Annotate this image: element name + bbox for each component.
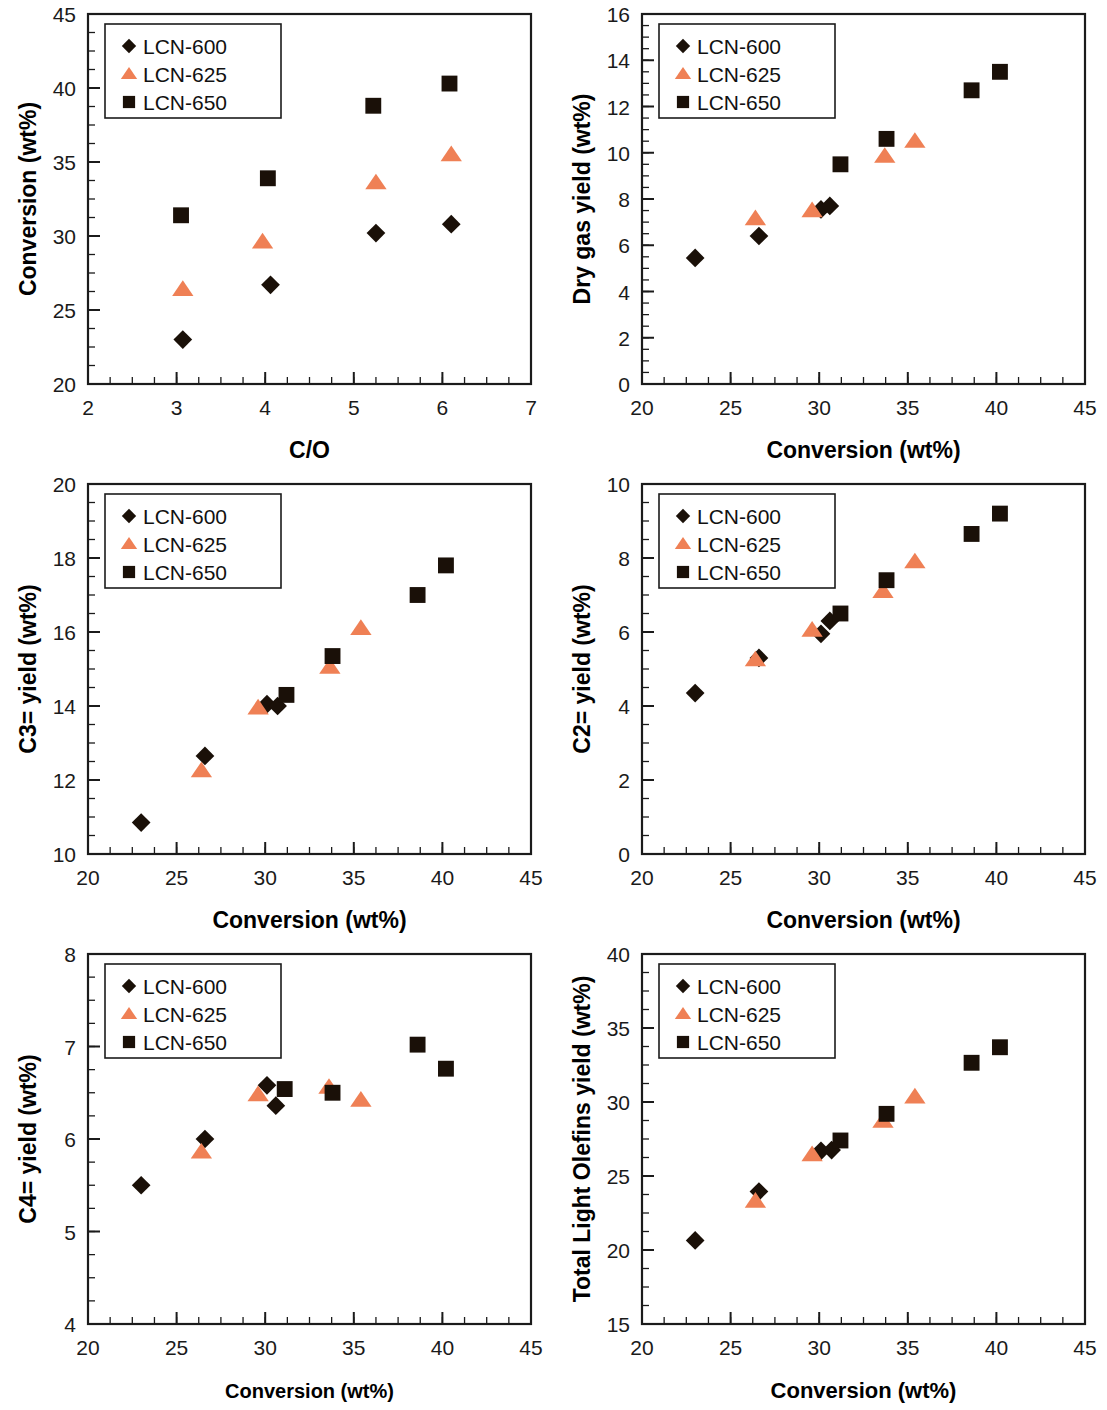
data-point-LCN-650 [325,648,341,664]
x-tick-label: 25 [165,866,188,889]
x-tick-label: 40 [431,866,454,889]
data-point-LCN-600 [132,1176,151,1195]
data-point-LCN-650 [410,1037,426,1053]
legend-label-LCN-650: LCN-650 [697,561,781,584]
y-tick-label: 0 [618,373,630,396]
data-point-LCN-600 [196,747,215,766]
y-tick-label: 45 [53,3,76,26]
data-point-LCN-625 [191,1143,212,1159]
x-tick-label: 40 [431,1336,454,1359]
x-tick-label: 35 [342,1336,365,1359]
chart-svg-c4-yield-vs-conversion: 20253035404545678Conversion (wt%)C4= yie… [0,940,553,1410]
x-tick-label: 40 [985,1336,1008,1359]
y-axis-title-group: C4= yield (wt%) [15,1054,41,1223]
x-tick-label: 20 [630,396,653,419]
x-tick-label: 30 [254,866,277,889]
data-point-LCN-600 [173,330,192,349]
x-tick-label: 3 [171,396,183,419]
x-tick-label: 35 [896,1336,919,1359]
x-axis-title: Conversion (wt%) [771,1378,957,1403]
y-tick-label: 6 [618,621,630,644]
y-tick-label: 14 [53,695,77,718]
x-tick-label: 45 [519,1336,542,1359]
x-tick-label: 25 [719,1336,742,1359]
data-point-LCN-650 [992,64,1008,80]
x-tick-label: 30 [254,1336,277,1359]
y-tick-label: 2 [618,769,630,792]
x-axis-title: C/O [289,437,330,463]
data-point-LCN-650 [964,82,980,98]
chart-panel-conversion-vs-co: 234567202530354045C/OConversion (wt%)LCN… [0,0,553,470]
y-tick-label: 4 [618,695,630,718]
data-points [132,1037,454,1195]
data-point-LCN-600 [750,227,769,246]
legend-label-LCN-650: LCN-650 [143,561,227,584]
legend-label-LCN-650: LCN-650 [697,91,781,114]
y-tick-label: 0 [618,843,630,866]
y-tick-label: 20 [53,373,76,396]
x-tick-label: 5 [348,396,360,419]
data-points [686,1039,1008,1249]
x-tick-label: 2 [82,396,94,419]
x-tick-label: 35 [342,866,365,889]
x-tick-label: 20 [630,866,653,889]
x-tick-label: 40 [985,396,1008,419]
chart-svg-conversion-vs-co: 234567202530354045C/OConversion (wt%)LCN… [0,0,553,470]
legend-label-LCN-600: LCN-600 [697,505,781,528]
data-point-LCN-600 [196,1130,215,1149]
data-point-LCN-600 [686,249,705,268]
y-axis-title: C3= yield (wt%) [15,584,41,753]
data-point-LCN-625 [904,132,925,148]
legend-label-LCN-600: LCN-600 [143,505,227,528]
chart-panel-dry-gas-yield-vs-conversion: 2025303540450246810121416Conversion (wt%… [554,0,1107,470]
data-point-LCN-625 [252,233,273,249]
x-tick-label: 20 [630,1336,653,1359]
legend-label-LCN-650: LCN-650 [697,1031,781,1054]
y-tick-label: 10 [607,142,630,165]
x-axis-title: Conversion (wt%) [766,907,960,933]
x-tick-label: 45 [1073,1336,1096,1359]
data-point-LCN-600 [686,1231,705,1250]
chart-panel-total-light-olefins-yield-vs-conversion: 202530354045152025303540Conversion (wt%)… [554,940,1107,1410]
x-tick-label: 45 [519,866,542,889]
y-tick-label: 4 [64,1313,76,1336]
data-point-LCN-650 [964,1055,980,1071]
legend: LCN-600LCN-625LCN-650 [659,24,835,118]
y-axis-title: Conversion (wt%) [15,102,41,296]
y-tick-label: 16 [53,621,76,644]
legend-label-LCN-625: LCN-625 [143,1003,227,1026]
y-tick-label: 10 [53,843,76,866]
data-point-LCN-650 [277,1081,293,1097]
data-point-LCN-650 [992,1039,1008,1055]
y-axis-title-group: C2= yield (wt%) [569,584,595,753]
y-tick-label: 6 [618,234,630,257]
y-axis-title-group: C3= yield (wt%) [15,584,41,753]
data-point-LCN-625 [441,146,462,162]
chart-svg-dry-gas-yield-vs-conversion: 2025303540450246810121416Conversion (wt%… [554,0,1107,470]
data-point-LCN-600 [442,215,461,234]
y-tick-label: 35 [53,151,76,174]
data-point-LCN-650 [365,98,381,114]
y-tick-label: 16 [607,3,630,26]
x-tick-label: 45 [1073,866,1096,889]
data-point-LCN-650 [173,207,189,223]
legend-label-LCN-625: LCN-625 [143,63,227,86]
legend-label-LCN-650: LCN-650 [143,1031,227,1054]
chart-panel-c2-yield-vs-conversion: 2025303540450246810Conversion (wt%)C2= y… [554,470,1107,940]
y-tick-label: 40 [607,943,630,966]
legend-label-LCN-625: LCN-625 [697,63,781,86]
legend: LCN-600LCN-625LCN-650 [659,964,835,1058]
x-tick-label: 30 [808,1336,831,1359]
legend: LCN-600LCN-625LCN-650 [105,24,281,118]
legend-marker-LCN-650 [677,96,689,108]
x-tick-label: 4 [259,396,271,419]
chart-panel-c3-yield-vs-conversion: 202530354045101214161820Conversion (wt%)… [0,470,553,940]
legend-marker-LCN-650 [677,1036,689,1048]
y-axis-title: Total Light Olefins yield (wt%) [569,976,595,1303]
data-point-LCN-650 [438,1061,454,1077]
data-point-LCN-625 [172,280,193,296]
y-tick-label: 15 [607,1313,630,1336]
y-axis-title: C4= yield (wt%) [15,1054,41,1223]
x-tick-label: 40 [985,866,1008,889]
y-axis-title-group: Conversion (wt%) [15,102,41,296]
